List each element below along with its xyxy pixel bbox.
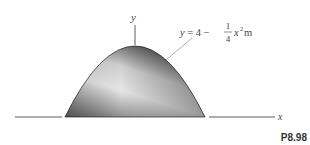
fraction-denominator: 4 xyxy=(226,34,231,44)
figure-label: P8.98 xyxy=(281,132,308,143)
equation-variable: x xyxy=(233,27,239,38)
svg-text:y = 4 −: y = 4 − xyxy=(179,27,210,38)
equation-exponent: 2 xyxy=(240,25,243,32)
fraction-numerator: 1 xyxy=(226,21,231,31)
equation-unit: m xyxy=(244,27,252,38)
parabola-diagram: y x y = 4 − 1 4 x 2 m P8.98 xyxy=(0,0,310,145)
equation: y = 4 − 1 4 x 2 m xyxy=(179,21,252,44)
y-axis-label: y xyxy=(130,11,136,23)
parabolic-area-shading xyxy=(65,46,205,117)
leader-line xyxy=(166,38,192,60)
equation-lhs-rest: = 4 − xyxy=(185,27,210,38)
x-axis-label: x xyxy=(277,111,283,122)
